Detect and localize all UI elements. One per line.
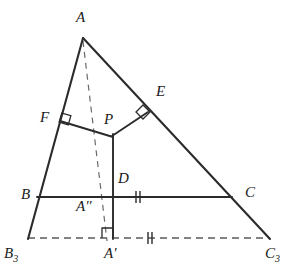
point-label-B3: B3: [4, 246, 18, 264]
side-AC-extended: [83, 38, 270, 239]
point-label-A-prime: A': [104, 246, 116, 261]
tick-marks: [136, 191, 152, 244]
point-label-C3-subscript: 3: [275, 253, 280, 264]
right-angle-icon-at-Aprime: [102, 228, 113, 238]
point-label-B3-subscript: 3: [13, 253, 18, 264]
figure-canvas: [0, 0, 301, 279]
point-label-C3-letter: C: [265, 245, 275, 261]
solid-lines: [28, 38, 270, 239]
segment-PE: [112, 112, 148, 136]
point-label-B: B: [21, 187, 30, 202]
geometry-figure: A B C E F P D A'' A' B3 C3: [0, 0, 301, 279]
point-label-A: A: [76, 10, 85, 25]
point-label-E: E: [156, 84, 165, 99]
point-label-A-double-prime: A'': [76, 199, 92, 214]
point-label-B3-letter: B: [4, 245, 13, 261]
point-label-F: F: [40, 110, 49, 125]
dashed-lines: [28, 41, 270, 241]
point-label-C: C: [245, 185, 255, 200]
point-label-C3: C3: [265, 246, 280, 264]
point-label-P: P: [104, 112, 113, 127]
side-AB-extended: [28, 38, 83, 239]
point-label-D: D: [118, 171, 129, 186]
